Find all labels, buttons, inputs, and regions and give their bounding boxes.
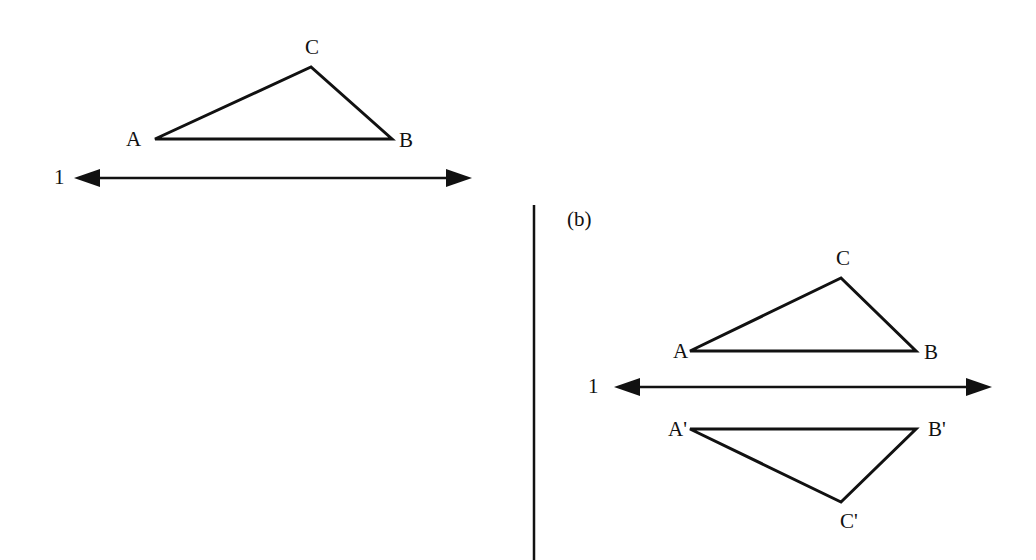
vertex-label-a-prime: A' xyxy=(668,417,687,441)
vertex-label-c: C xyxy=(305,35,319,59)
line-label-l: 1 xyxy=(54,165,65,189)
arrow-left-icon xyxy=(74,169,100,187)
arrow-right-icon xyxy=(966,378,992,396)
line-label-l: 1 xyxy=(588,374,599,398)
line-l-b xyxy=(614,378,992,396)
vertex-label-b: B xyxy=(399,128,413,152)
vertex-label-c-prime: C' xyxy=(840,509,858,533)
panel-b: (b) A B C 1 A' B' C' xyxy=(567,207,992,533)
vertex-label-c: C xyxy=(836,246,850,270)
arrow-left-icon xyxy=(614,378,640,396)
vertex-label-a: A xyxy=(126,127,142,151)
panel-caption-b: (b) xyxy=(567,207,592,231)
triangle-abc xyxy=(155,67,392,139)
line-l-a xyxy=(74,169,472,187)
triangle-abc xyxy=(690,278,916,351)
panel-a: A B C 1 xyxy=(54,35,472,189)
arrow-right-icon xyxy=(446,169,472,187)
vertex-label-b: B xyxy=(924,340,938,364)
triangle-abc-prime xyxy=(690,429,916,502)
reflection-diagram: A B C 1 (b) A B C 1 A' B' C' xyxy=(0,0,1036,560)
vertex-label-b-prime: B' xyxy=(928,417,946,441)
vertex-label-a: A xyxy=(673,339,689,363)
